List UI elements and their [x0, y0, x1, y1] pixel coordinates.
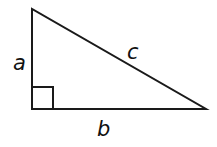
right-angle-marker: [32, 87, 53, 109]
label-b: b: [97, 117, 110, 141]
triangle: [32, 9, 206, 109]
label-a: a: [13, 51, 26, 75]
label-c: c: [127, 40, 139, 64]
right-triangle-diagram: a c b: [0, 0, 217, 147]
